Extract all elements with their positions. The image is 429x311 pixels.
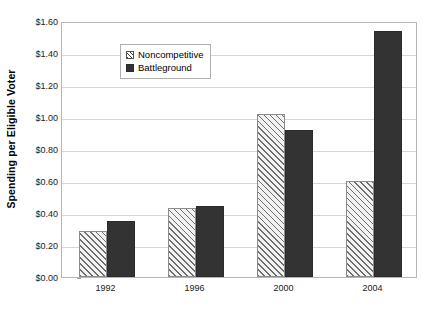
bars-layer <box>62 23 416 277</box>
y-axis-title: Spending per Eligible Voter <box>0 0 22 278</box>
y-axis-tick-label: $1.20 <box>20 81 58 91</box>
y-axis-tick-label: $0.60 <box>20 177 58 187</box>
legend-swatch-icon <box>126 51 134 59</box>
y-axis-tick-label: $0.00 <box>20 273 58 283</box>
bar-group <box>329 23 418 277</box>
y-axis-tick-label: $0.20 <box>20 241 58 251</box>
bar-battleground-1996 <box>196 206 224 277</box>
y-axis-tick-mark <box>77 278 81 279</box>
x-axis-tick-label: 1996 <box>184 283 204 293</box>
legend-item: Battleground <box>126 61 203 74</box>
legend-item: Noncompetitive <box>126 48 203 61</box>
bar-noncompetitive-2004 <box>346 181 374 277</box>
x-axis-tick-label: 1992 <box>95 283 115 293</box>
legend-item-label: Battleground <box>138 62 192 73</box>
bar-noncompetitive-1992 <box>79 231 107 277</box>
bar-battleground-2000 <box>285 130 313 277</box>
x-axis-tick-label: 2004 <box>362 283 382 293</box>
bar-battleground-1992 <box>107 221 135 277</box>
plot-area <box>61 22 417 278</box>
y-axis-tick-label: $0.40 <box>20 209 58 219</box>
y-axis-tick-label: $1.40 <box>20 49 58 59</box>
bar-group <box>240 23 329 277</box>
y-axis-tick-label: $0.80 <box>20 145 58 155</box>
bar-noncompetitive-2000 <box>257 114 285 277</box>
y-axis-tick-label: $1.60 <box>20 17 58 27</box>
chart-legend: NoncompetitiveBattleground <box>120 44 211 79</box>
x-axis-tick-labels: 1992199620002004 <box>61 283 417 303</box>
bar-noncompetitive-1996 <box>168 208 196 277</box>
y-axis-title-text: Spending per Eligible Voter <box>5 69 17 208</box>
y-axis-tick-label: $1.00 <box>20 113 58 123</box>
legend-swatch-icon <box>126 64 134 72</box>
x-axis-tick-label: 2000 <box>273 283 293 293</box>
legend-item-label: Noncompetitive <box>138 49 203 60</box>
y-axis-tick-labels: $0.00$0.20$0.40$0.60$0.80$1.00$1.20$1.40… <box>20 22 58 278</box>
bar-battleground-2004 <box>374 31 402 277</box>
bar-chart: Spending per Eligible Voter $0.00$0.20$0… <box>0 0 429 311</box>
